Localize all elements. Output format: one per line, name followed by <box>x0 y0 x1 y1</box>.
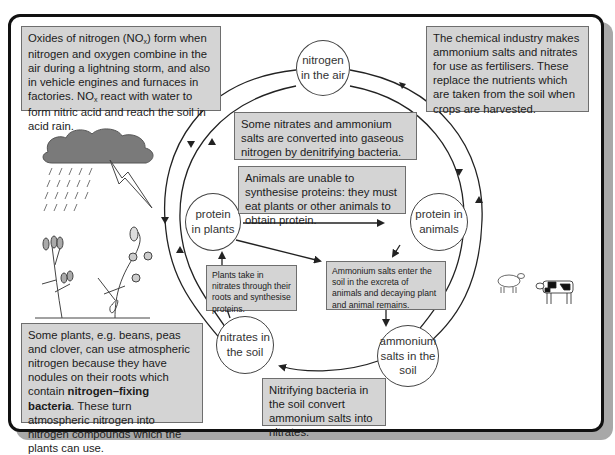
cow-icon <box>536 281 573 304</box>
lightning-bolt-icon <box>110 160 152 208</box>
nitrifying-info-box: Nitrifying bacteria in the soil convert … <box>262 378 386 426</box>
node-label: nitrates in <box>220 331 270 343</box>
node-label: protein in <box>415 208 462 220</box>
node-nitrogen-in-air: nitrogenin the air <box>296 40 350 96</box>
node-label: protein <box>195 208 230 220</box>
node-label: the soil <box>227 346 263 358</box>
rain-icon <box>44 168 92 211</box>
node-protein-in-plants: proteinin plants <box>185 193 241 251</box>
pea-plant-icon <box>98 227 152 318</box>
node-nitrates-in-soil: nitrates inthe soil <box>216 316 274 374</box>
node-label: in plants <box>192 223 235 235</box>
box-text: Ammonium salts enter the soil in the exc… <box>332 266 436 310</box>
box-text: The chemical industry makes ammonium sal… <box>433 32 579 115</box>
box-text: Oxides of nitrogen (NO <box>28 32 144 44</box>
box-text: Some nitrates and ammonium salts are con… <box>241 118 404 158</box>
lightning-info-box: Oxides of nitrogen (NOx) form when nitro… <box>21 26 221 111</box>
node-label: in the air <box>301 69 345 81</box>
node-label: salts in the <box>381 350 436 362</box>
node-protein-in-animals: protein inanimals <box>410 193 468 251</box>
animals-info-box: Animals are unable to synthesise protein… <box>238 166 406 214</box>
node-ammonium-salts-in-soil: ammoniumsalts in thesoil <box>377 325 439 387</box>
legumes-info-box: Some plants, e.g. beans, peas and clover… <box>21 323 203 423</box>
node-label: ammonium <box>380 335 437 347</box>
denitrifying-info-box: Some nitrates and ammonium salts are con… <box>234 112 417 160</box>
storm-cloud-icon <box>43 129 153 163</box>
box-text: Plants take in nitrates through their ro… <box>212 270 291 314</box>
ammonium-enter-soil-box: Ammonium salts enter the soil in the exc… <box>326 261 446 310</box>
node-label: nitrogen <box>302 54 344 66</box>
node-label: soil <box>399 364 416 376</box>
sheep-icon <box>498 274 525 294</box>
plants-take-nitrates-box: Plants take in nitrates through their ro… <box>206 265 297 311</box>
fertiliser-info-box: The chemical industry makes ammonium sal… <box>426 26 589 112</box>
node-label: animals <box>419 223 459 235</box>
